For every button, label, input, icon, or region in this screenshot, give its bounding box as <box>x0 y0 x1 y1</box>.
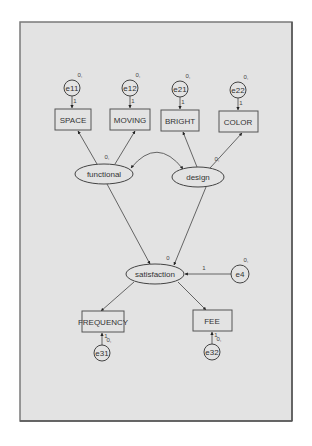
node-frequency[interactable]: FREQUENCY <box>78 311 129 332</box>
node-label: e11 <box>66 84 79 93</box>
node-label: satisfaction <box>135 270 175 279</box>
node-label: e22 <box>231 86 245 95</box>
node-space[interactable]: SPACE <box>55 109 91 130</box>
node-label: e31 <box>95 349 109 358</box>
sem-diagram: SPACE MOVING BRIGHT COLOR FREQUENCY FEE … <box>0 0 312 446</box>
design-mean-label: 0, <box>214 156 219 162</box>
node-functional[interactable]: functional <box>75 164 133 184</box>
node-label: COLOR <box>224 118 253 127</box>
node-label: BRIGHT <box>165 117 195 126</box>
node-label: FEE <box>204 317 220 326</box>
mean-label: 0, <box>185 73 190 79</box>
mean-label: 0, <box>135 72 140 78</box>
node-satisfaction[interactable]: satisfaction <box>126 264 184 284</box>
node-label: FREQUENCY <box>78 318 129 327</box>
node-label: e32 <box>205 348 219 357</box>
node-label: e12 <box>123 84 137 93</box>
node-label: MOVING <box>114 116 146 125</box>
mean-label: 0, <box>243 74 248 80</box>
functional-mean-label: 0, <box>104 154 109 160</box>
node-label: e4 <box>236 270 245 279</box>
mean-label: 0, <box>243 257 248 263</box>
node-label: SPACE <box>60 116 87 125</box>
node-color[interactable]: COLOR <box>219 111 258 132</box>
node-design[interactable]: design <box>172 167 224 187</box>
mean-label: 0, <box>77 72 82 78</box>
node-bright[interactable]: BRIGHT <box>161 110 199 131</box>
diagram-frame <box>20 22 292 421</box>
node-label: e21 <box>173 85 187 94</box>
node-moving[interactable]: MOVING <box>110 109 150 130</box>
node-fee[interactable]: FEE <box>193 310 232 331</box>
node-label: design <box>186 173 210 182</box>
node-label: functional <box>87 170 121 179</box>
